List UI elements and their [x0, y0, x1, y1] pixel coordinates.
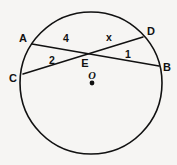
segment-label-ae: 4: [63, 32, 69, 44]
circle-center-dot: [90, 81, 95, 86]
point-label-o: O: [88, 70, 96, 81]
segment-label-ed: x: [106, 31, 112, 43]
segment-label-ce: 2: [49, 54, 55, 66]
point-label-a: A: [19, 32, 27, 44]
circle-chords-figure: A D C B E O 4 x 2 1: [0, 0, 177, 165]
segment-label-eb: 1: [125, 48, 131, 60]
geometry-diagram: A D C B E O 4 x 2 1: [0, 0, 177, 165]
point-label-c: C: [9, 72, 17, 84]
point-label-b: B: [163, 61, 171, 73]
point-label-e: E: [81, 57, 88, 69]
point-label-d: D: [147, 25, 155, 37]
